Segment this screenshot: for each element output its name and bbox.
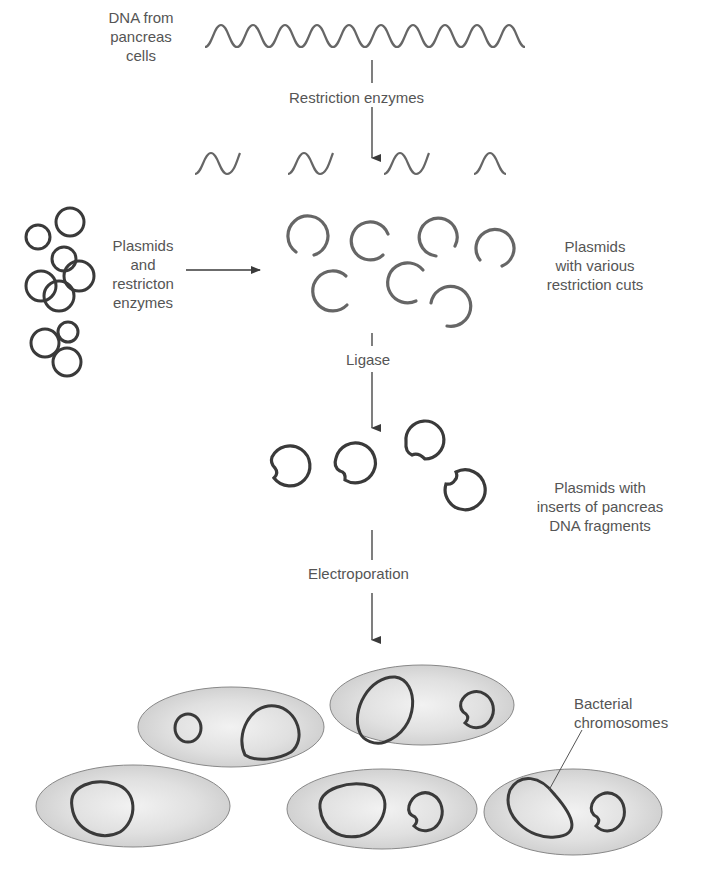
label-line: Restriction enzymes [289, 88, 424, 107]
label-line: cells [100, 46, 182, 65]
label-line: Plasmids [530, 237, 660, 256]
label-bacterial-chromosomes: Bacterial chromosomes [574, 694, 668, 732]
label-recombinant-plasmids: Plasmids with inserts of pancreas DNA fr… [520, 478, 680, 535]
label-line: chromosomes [574, 713, 668, 732]
label-line: enzymes [100, 293, 186, 312]
label-ligase: Ligase [343, 350, 393, 369]
label-line: and [100, 255, 186, 274]
bacterium-cell-icon [36, 765, 230, 847]
bacterium-cell-icon [138, 687, 324, 767]
label-plasmid-source: Plasmids and restricton enzymes [100, 236, 186, 312]
bacterium-cell-icon [287, 769, 477, 849]
label-line: Plasmids [100, 236, 186, 255]
recombinant-plasmids-icon [271, 421, 485, 510]
intact-plasmids-icon [26, 208, 94, 376]
label-line: Plasmids with [520, 478, 680, 497]
label-line: with various [530, 256, 660, 275]
label-line: Bacterial [574, 694, 668, 713]
label-line: Ligase [346, 350, 390, 369]
dna-strand-icon [205, 25, 525, 47]
label-cut-plasmids: Plasmids with various restriction cuts [530, 237, 660, 294]
label-dna-source: DNA from pancreas cells [100, 8, 182, 65]
cut-plasmids-icon [288, 216, 514, 326]
label-line: inserts of pancreas [520, 497, 680, 516]
label-restriction-enzymes: Restriction enzymes [286, 88, 427, 107]
cloning-diagram [0, 0, 719, 882]
label-line: DNA from [100, 8, 182, 27]
label-line: restriction cuts [530, 275, 660, 294]
bacterium-cell-icon [330, 665, 514, 745]
bacteria-group [36, 665, 662, 855]
dna-fragments-icon [195, 153, 506, 174]
label-line: DNA fragments [520, 516, 680, 535]
label-electroporation: Electroporation [305, 564, 412, 583]
label-line: Electroporation [308, 564, 409, 583]
label-line: pancreas [100, 27, 182, 46]
bacterium-cell-icon [484, 769, 662, 855]
label-line: restricton [100, 274, 186, 293]
